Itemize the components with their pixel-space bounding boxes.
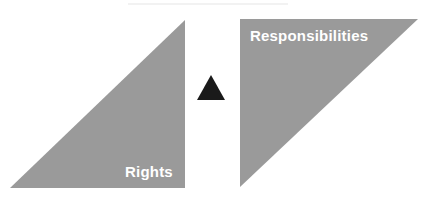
responsibilities-triangle [240,19,418,187]
up-triangle-icon [197,75,225,100]
rights-label: Rights [125,163,173,180]
responsibilities-label: Responsibilities [250,27,368,44]
